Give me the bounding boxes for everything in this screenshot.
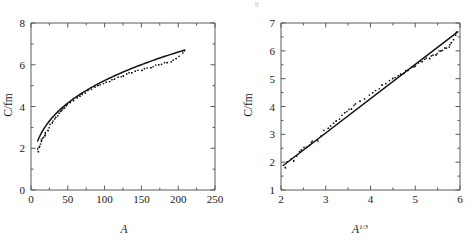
y-tick-label: 0 [20, 184, 26, 196]
y-tick-label: 4 [20, 101, 26, 113]
x-tick-label: 5 [413, 193, 419, 205]
right-y-tick-labels: 1234567 [270, 17, 276, 196]
left-data-points [37, 50, 185, 153]
right-tick-marks [281, 23, 460, 190]
y-tick-label: 8 [20, 17, 26, 29]
x-tick-label: 4 [368, 193, 374, 205]
plot-panel-left: 050100150200250 02468 A C/fm [0, 0, 236, 241]
left-y-axis-title: C/fm [2, 93, 14, 117]
y-tick-label: 1 [270, 184, 276, 196]
left-y-tick-labels: 02468 [20, 17, 26, 196]
scan-artifact [255, 2, 259, 7]
y-tick-label: 2 [20, 142, 26, 154]
y-tick-label: 6 [270, 45, 276, 57]
right-x-axis-title: A1/3 [351, 223, 368, 235]
x-tick-label: 0 [28, 193, 34, 205]
right-y-axis-title: C/fm [242, 93, 254, 117]
left-fit-curve [38, 50, 185, 141]
y-tick-label: 7 [270, 17, 276, 29]
y-tick-label: 2 [270, 156, 276, 168]
y-tick-label: 4 [270, 101, 276, 113]
left-x-tick-labels: 050100150200250 [28, 193, 224, 205]
right-fit-line [283, 32, 458, 166]
x-tick-label: 3 [323, 193, 329, 205]
left-axes-frame [31, 23, 215, 190]
x-tick-label: 50 [62, 193, 74, 205]
x-tick-label: 2 [278, 193, 284, 205]
plot-panel-right: 23456 1234567 A1/3 C/fm [236, 0, 472, 241]
x-tick-label: 250 [207, 193, 224, 205]
x-tick-label: 6 [457, 193, 463, 205]
left-x-axis-title: A [119, 223, 128, 235]
left-tick-marks [31, 23, 215, 190]
y-tick-label: 5 [270, 73, 276, 85]
right-axes-frame [281, 23, 460, 190]
left-plot-svg: 050100150200250 02468 A C/fm [0, 0, 236, 241]
right-x-tick-labels: 23456 [278, 193, 463, 205]
right-plot-svg: 23456 1234567 A1/3 C/fm [236, 0, 472, 241]
y-tick-label: 6 [20, 59, 26, 71]
x-tick-label: 100 [96, 193, 113, 205]
x-tick-label: 150 [133, 193, 150, 205]
y-tick-label: 3 [270, 128, 276, 140]
x-tick-label: 200 [170, 193, 187, 205]
